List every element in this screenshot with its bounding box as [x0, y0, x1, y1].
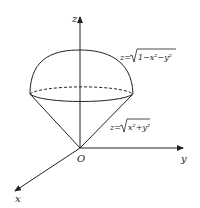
sphere-equation-radicand: 1−x²−y² [138, 53, 172, 62]
cone-right-edge [80, 94, 133, 148]
sphere-equation-lhs: z= [119, 53, 131, 62]
origin-label: O [77, 153, 85, 164]
cone-equation: z= x²+y² [109, 119, 150, 132]
y-axis-label: y [180, 153, 187, 164]
sphere-equation: z= 1−x²−y² [119, 49, 176, 62]
cone-equation-radicand: x²+y² [128, 123, 150, 132]
x-axis [15, 148, 80, 191]
equator-back-dashed [30, 87, 133, 94]
cone-equation-lhs: z= [109, 123, 121, 132]
axes [15, 17, 183, 191]
equator-front [30, 94, 133, 102]
x-axis-label: x [15, 193, 21, 204]
diagram-canvas: z y x O z= 1−x²−y² z= x²+y² [0, 0, 200, 208]
cone-left-edge [30, 94, 80, 148]
z-axis-label: z [71, 13, 78, 24]
hemisphere-outline [30, 50, 133, 94]
